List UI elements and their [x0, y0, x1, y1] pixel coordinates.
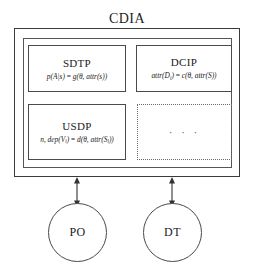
module-placeholder-more[interactable]: · · · — [137, 104, 232, 160]
diagram-canvas: CDIA SDTP p(A|s) = g(θ, attr(s)) DCIP at… — [0, 0, 254, 280]
module-sdtp-title: SDTP — [63, 57, 91, 70]
paren-close-outer: )) — [109, 135, 114, 144]
node-po-label: PO — [69, 225, 85, 240]
module-usdp-formula: n, dep(Vi) = d(θ, attr(Si)) — [40, 135, 114, 145]
module-dcip-formula: attr(Di) = c(θ, attr(S)) — [151, 71, 216, 81]
module-dcip-formula-lhs: attr(D — [151, 71, 169, 80]
module-dcip-formula-rhs: c(θ, attr(S)) — [182, 71, 217, 80]
module-usdp-formula-lhs: n, dep(V — [40, 135, 65, 144]
module-sdtp-formula: p(A|s) = g(θ, attr(s)) — [47, 72, 107, 81]
equals-sign: = — [65, 72, 73, 81]
node-po[interactable]: PO — [48, 203, 107, 262]
module-dcip[interactable]: DCIP attr(Di) = c(θ, attr(S)) — [136, 45, 232, 92]
node-dt[interactable]: DT — [143, 203, 202, 262]
equals-sign: = — [174, 71, 182, 80]
module-sdtp-formula-rhs: g(θ, attr(s)) — [73, 72, 107, 81]
module-usdp-formula-rhs-subscript: i — [107, 138, 108, 144]
module-dcip-title: DCIP — [171, 56, 197, 69]
module-sdtp[interactable]: SDTP p(A|s) = g(θ, attr(s)) — [28, 45, 126, 92]
module-usdp-formula-rhs: d(θ, attr(S — [77, 135, 107, 144]
module-sdtp-formula-lhs: p(A|s) — [47, 72, 65, 81]
module-usdp[interactable]: USDP n, dep(Vi) = d(θ, attr(Si)) — [28, 104, 126, 160]
module-usdp-title: USDP — [62, 120, 91, 133]
ellipsis-icon: · · · — [169, 127, 201, 138]
node-dt-label: DT — [164, 225, 181, 240]
page-title: CDIA — [0, 11, 254, 27]
equals-sign: = — [69, 135, 77, 144]
module-usdp-formula-lhs-subscript: i — [65, 138, 66, 144]
